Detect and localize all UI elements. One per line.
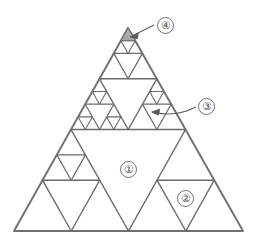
level4-hole-apex [121, 41, 135, 54]
level4-hole-topright-upper [150, 92, 164, 105]
region-label-3: ③ [198, 98, 215, 115]
level2-hole-bottom-left [43, 180, 100, 231]
level3-hole-apex [114, 53, 143, 78]
level4-hole-topleft-left [78, 117, 92, 130]
region-label-4: ④ [157, 17, 174, 34]
level4-hole-topleft-upper [92, 92, 106, 105]
level3-hole-bottom-left-upper [57, 155, 86, 180]
region-label-2: ② [177, 190, 194, 207]
region-label-1: ① [120, 161, 137, 178]
arrow-head-3 [152, 109, 160, 115]
level3-hole-top-right [143, 104, 172, 129]
shaded-apex-triangle [121, 28, 135, 41]
sierpinski-gasket [14, 28, 243, 231]
level4-hole-topleft-right [107, 117, 121, 130]
leader-arrows [130, 25, 196, 115]
sierpinski-triangle-figure [0, 0, 256, 243]
